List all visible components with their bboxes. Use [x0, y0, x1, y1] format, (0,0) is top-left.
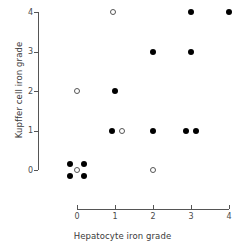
x-tick-label-2: 2 [145, 212, 161, 221]
x-tick-label-4: 4 [221, 212, 237, 221]
x-axis-title: Hepatocyte iron grade [0, 231, 245, 241]
y-tick-3 [34, 52, 38, 53]
x-tick-label-1: 1 [107, 212, 123, 221]
y-axis-line [38, 12, 39, 170]
data-point-filled-circle-0-0 [67, 173, 73, 179]
scatter-plot: 01234 Kupffer cell iron grade 01234 Hepa… [0, 0, 245, 252]
x-tick-3 [191, 205, 192, 209]
data-point-open-circle-1-1 [119, 128, 125, 134]
x-tick-4 [229, 205, 230, 209]
data-point-open-circle-0-0 [74, 167, 80, 173]
data-point-filled-circle-4-4 [226, 9, 232, 15]
y-tick-1 [34, 131, 38, 132]
data-point-open-circle-1-4 [110, 9, 116, 15]
y-tick-0 [34, 170, 38, 171]
x-tick-label-0: 0 [69, 212, 85, 221]
data-point-open-circle-2-0 [150, 167, 156, 173]
data-point-filled-circle-0-0 [81, 173, 87, 179]
data-point-filled-circle-2-1 [150, 128, 156, 134]
data-point-filled-circle-1-2 [112, 88, 118, 94]
data-point-filled-circle-3-3 [188, 49, 194, 55]
data-point-filled-circle-2-3 [150, 49, 156, 55]
x-tick-2 [153, 205, 154, 209]
y-tick-2 [34, 91, 38, 92]
data-point-open-circle-0-2 [74, 88, 80, 94]
x-tick-0 [77, 205, 78, 209]
x-tick-1 [115, 205, 116, 209]
data-point-filled-circle-3-1 [193, 128, 199, 134]
data-point-filled-circle-0-0 [81, 161, 87, 167]
y-tick-4 [34, 12, 38, 13]
data-point-filled-circle-1-1 [109, 128, 115, 134]
data-point-filled-circle-3-4 [188, 9, 194, 15]
data-point-filled-circle-3-1 [183, 128, 189, 134]
y-axis-title: Kupffer cell iron grade [14, 5, 24, 175]
data-point-filled-circle-0-0 [67, 161, 73, 167]
x-tick-label-3: 3 [183, 212, 199, 221]
x-axis-line [77, 209, 229, 210]
